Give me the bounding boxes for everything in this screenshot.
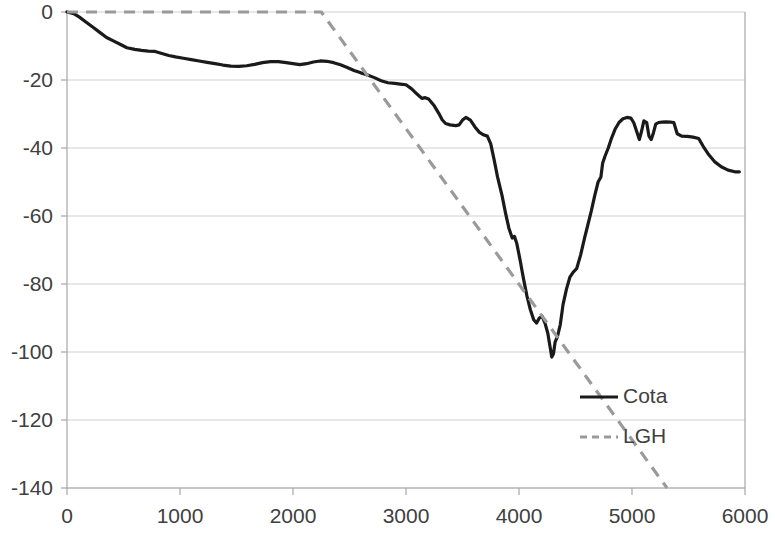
legend: CotaLGH: [580, 384, 668, 447]
y-axis-tick-label: -80: [23, 272, 53, 295]
line-chart: 0-20-40-60-80-100-120-140 01000200030004…: [0, 0, 775, 535]
x-axis-tick-label: 5000: [609, 504, 656, 527]
series-line-lgh: [67, 12, 667, 488]
series-line-cota: [67, 12, 739, 357]
legend-label-cota: Cota: [623, 384, 668, 407]
y-axis-tick-label: -140: [11, 476, 53, 499]
y-axis-tick-labels: 0-20-40-60-80-100-120-140: [11, 0, 53, 499]
y-axis-tick-label: -20: [23, 68, 53, 91]
x-axis-tick-label: 4000: [496, 504, 543, 527]
y-axis-tick-label: -100: [11, 340, 53, 363]
series-group: [67, 12, 739, 488]
y-axis-tick-label: -60: [23, 204, 53, 227]
x-axis-tick-labels: 0100020003000400050006000: [61, 504, 768, 527]
legend-label-lgh: LGH: [623, 424, 666, 447]
x-axis-tick-label: 3000: [383, 504, 430, 527]
x-axis-tick-label: 2000: [270, 504, 317, 527]
x-axis-tick-label: 0: [61, 504, 73, 527]
x-axis-tick-label: 6000: [722, 504, 769, 527]
y-axis-tick-label: -120: [11, 408, 53, 431]
chart-container: 0-20-40-60-80-100-120-140 01000200030004…: [0, 0, 775, 535]
y-axis-tick-label: 0: [41, 0, 53, 23]
x-axis-tick-label: 1000: [157, 504, 204, 527]
y-axis-tick-label: -40: [23, 136, 53, 159]
